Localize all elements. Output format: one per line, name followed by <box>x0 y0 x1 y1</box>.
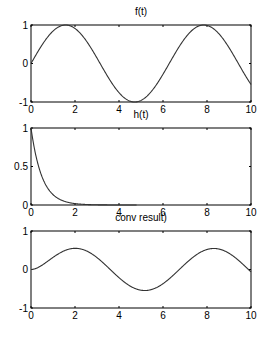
x-tick-label: 2 <box>72 207 78 218</box>
series-line-f <box>31 25 251 102</box>
x-tick-label: 10 <box>245 207 257 218</box>
subplot-title-conv: conv result) <box>115 212 167 223</box>
axes-frame-f <box>31 25 251 102</box>
y-tick-label: 0.5 <box>14 161 28 172</box>
y-tick-label: 0 <box>22 58 28 69</box>
x-tick-label: 8 <box>204 310 210 321</box>
x-tick-label: 6 <box>160 104 166 115</box>
y-tick-label: 1 <box>22 123 28 134</box>
axes-frame-h <box>31 128 251 205</box>
subplot-f: f(t) 0246810-101 <box>19 6 257 115</box>
subplot-title-f: f(t) <box>135 6 147 17</box>
subplot-title-h: h(t) <box>134 109 149 120</box>
x-tick-label: 8 <box>204 207 210 218</box>
y-tick-label: 0 <box>22 200 28 211</box>
x-tick-label: 0 <box>28 104 34 115</box>
x-tick-label: 10 <box>245 104 257 115</box>
x-tick-label: 0 <box>28 207 34 218</box>
y-tick-label: 0 <box>22 264 28 275</box>
x-tick-label: 10 <box>245 310 257 321</box>
series-line-conv <box>31 248 251 290</box>
y-tick-label: -1 <box>19 303 28 314</box>
series-line-h <box>31 128 137 205</box>
x-tick-label: 4 <box>116 310 122 321</box>
subplot-h: h(t) 024681000.51 <box>14 109 257 218</box>
subplot-conv: conv result) 0246810-101 <box>19 212 257 321</box>
axes-frame-conv <box>31 231 251 308</box>
y-tick-label: 1 <box>22 20 28 31</box>
figure: f(t) 0246810-101 h(t) 024681000.51 conv … <box>0 0 268 340</box>
x-tick-label: 8 <box>204 104 210 115</box>
x-tick-label: 2 <box>72 310 78 321</box>
x-tick-label: 4 <box>116 104 122 115</box>
y-tick-label: 1 <box>22 226 28 237</box>
x-tick-label: 0 <box>28 310 34 321</box>
x-tick-label: 6 <box>160 310 166 321</box>
y-tick-label: -1 <box>19 97 28 108</box>
x-tick-label: 2 <box>72 104 78 115</box>
